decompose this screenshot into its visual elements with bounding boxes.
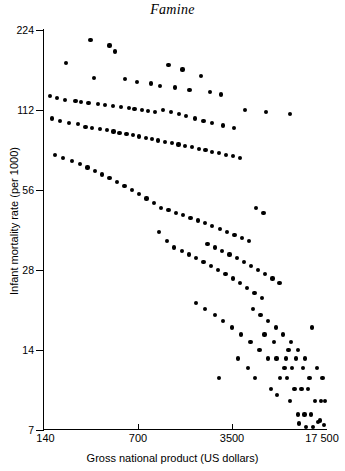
data-point [67,121,71,125]
data-point [194,301,198,305]
y-tick-label: 112 [0,104,34,116]
y-tick-label: 14 [0,344,34,356]
data-point [187,252,191,256]
data-point [210,121,214,125]
data-point [238,281,242,285]
data-point [313,399,317,403]
scatter-chart: Famine 7142856112224 140700350017 500 In… [0,0,345,471]
data-point [311,425,315,429]
data-point [130,188,134,192]
y-tick-mark [36,270,43,271]
y-tick-mark [36,190,43,191]
data-point [310,325,314,329]
data-point [98,127,102,131]
data-point [320,376,324,380]
data-point [315,366,319,370]
data-point [219,92,223,96]
data-point [248,340,252,344]
data-point [266,356,270,360]
y-tick-mark [36,430,43,431]
data-point [262,332,266,336]
data-point [274,356,278,360]
data-point [158,84,162,88]
data-point [181,213,185,217]
data-point [203,307,207,311]
data-point [90,126,94,130]
data-point [197,147,201,151]
data-point [235,256,239,260]
data-point [270,276,274,280]
data-point [183,144,187,148]
data-point [58,119,62,123]
data-point [247,239,251,243]
data-point [61,156,65,160]
data-point [210,224,214,228]
data-point [150,137,154,141]
data-point [261,211,265,215]
data-point [239,332,243,336]
data-point [152,201,156,205]
data-point [216,268,220,272]
x-tick-label: 17 500 [305,432,339,444]
data-point [223,272,227,276]
data-point [213,313,217,317]
data-point [127,106,131,110]
data-point [306,387,310,391]
data-point [140,108,144,112]
data-point [323,399,327,403]
data-point [285,376,289,380]
data-point [76,122,80,126]
data-point [83,125,87,129]
data-point [232,233,236,237]
data-point [224,153,228,157]
data-point [266,319,270,323]
data-point [303,356,307,360]
data-point [132,107,136,111]
data-point [137,134,141,138]
data-point [253,376,257,380]
data-point [64,61,68,65]
data-point [213,245,217,249]
data-point [113,49,117,53]
x-tick-label: 3500 [220,432,244,444]
data-point [289,340,293,344]
data-point [117,131,121,135]
data-point [269,387,273,391]
data-point [111,129,115,133]
data-point [201,260,205,264]
data-point [221,319,225,323]
data-point [275,393,279,397]
x-tick-label: 140 [36,432,54,444]
data-point [309,412,313,416]
data-point [135,80,139,84]
data-point [290,366,294,370]
data-point [159,206,163,210]
chart-title: Famine [0,2,345,18]
data-point [180,249,184,253]
data-point [296,412,300,416]
data-point [123,77,127,81]
data-point [221,123,225,127]
data-point [232,126,236,130]
data-point [227,252,231,256]
data-point [284,356,288,360]
data-point [161,108,165,112]
data-point [238,156,242,160]
data-point [301,366,305,370]
data-point [63,98,67,102]
data-point [257,348,261,352]
data-point [53,153,57,157]
data-point [203,221,207,225]
data-point [194,256,198,260]
data-point [282,366,286,370]
data-point [294,356,298,360]
data-point [103,103,107,107]
data-point [166,63,170,67]
data-point [278,376,282,380]
data-point [231,154,235,158]
data-point [92,76,96,80]
data-point [163,140,167,144]
y-axis-label: Infant mortality rate (per 1000) [8,121,20,321]
data-point [199,74,203,78]
data-point [115,180,119,184]
